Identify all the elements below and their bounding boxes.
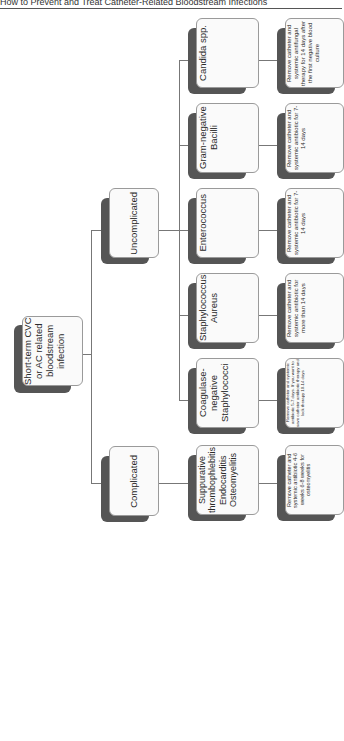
treatment-label: Remove catheter and systemic antibiotic …: [286, 274, 343, 342]
connector-l3-entero: [258, 230, 277, 231]
organism-label: Gram-negative Bacilli: [198, 104, 258, 172]
connector-level1-spine: [91, 230, 92, 483]
organism-label: Staphylococcus Aureus: [198, 274, 258, 342]
uncomplicated-label: Uncomplicated: [129, 192, 140, 255]
treatment-label: Remove catheter and systemic antibiotic …: [286, 189, 343, 257]
treatment-label: Remove catheter and systemic antibiotic …: [286, 446, 343, 514]
condition-label: Suppurative thrombophlebitis Endocarditi…: [197, 446, 258, 514]
complicated-label: Complicated: [129, 455, 140, 508]
connector-l3-staph: [258, 315, 277, 316]
connector-l3-complicated: [258, 483, 277, 484]
treatment-label: Remove catheter and systemic antibiotic …: [286, 359, 343, 427]
connector-l3-gram: [258, 145, 277, 146]
header-divider: [0, 8, 342, 9]
connector-uncomplicated-out: [158, 230, 179, 231]
connector-root: [82, 354, 91, 355]
treatment-label: Remove catheter and systemic antifungal …: [286, 19, 343, 87]
organism-label: Coagulase-negative Staphylococci: [198, 359, 258, 427]
connector-l3-coag: [258, 400, 277, 401]
page-header-title: How to Prevent and Treat Catheter-Relate…: [0, 0, 342, 7]
connector-complicated-to-condition: [158, 483, 190, 484]
connector-l3-candida: [258, 60, 277, 61]
root-label: Short-term CVC or AC related bloodstream…: [23, 317, 82, 385]
organism-label: Enterococcus: [198, 194, 258, 252]
organism-label: Candida spp.: [198, 25, 258, 81]
treatment-label: Remove catheter and systemic antibiotic …: [286, 104, 343, 172]
